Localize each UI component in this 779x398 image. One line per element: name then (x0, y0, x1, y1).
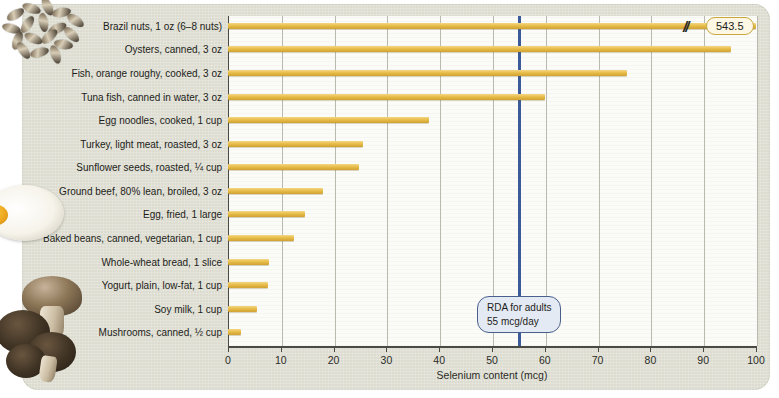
bar-11 (228, 282, 268, 288)
x-tick-label-20: 20 (328, 354, 340, 366)
bar-13 (228, 329, 241, 335)
gridline-80 (651, 16, 652, 346)
x-tick-label-10: 10 (275, 354, 287, 366)
category-label-6: Sunflower seeds, roasted, ¼ cup (0, 162, 222, 173)
bar-6 (228, 164, 359, 170)
bar-3 (228, 94, 545, 100)
x-tick-50 (492, 346, 493, 352)
x-tick-40 (439, 346, 440, 352)
bar-8 (228, 211, 305, 217)
gridline-100 (757, 16, 758, 346)
brazil-nuts-value-callout: 543.5 (706, 17, 754, 35)
x-tick-label-100: 100 (747, 354, 765, 366)
category-label-10: Whole-wheat bread, 1 slice (0, 256, 222, 267)
gridline-20 (335, 16, 336, 346)
x-tick-70 (598, 346, 599, 352)
x-tick-label-30: 30 (381, 354, 393, 366)
rda-label-line1: RDA for adults (487, 301, 551, 315)
x-tick-30 (386, 346, 387, 352)
bar-2 (228, 70, 627, 76)
x-tick-label-0: 0 (225, 354, 231, 366)
x-tick-0 (228, 346, 229, 352)
bar-5 (228, 141, 363, 147)
gridline-90 (704, 16, 705, 346)
bar-4 (228, 117, 429, 123)
rda-label-line2: 55 mcg/day (487, 315, 551, 329)
selenium-content-figure: Brazil nuts, 1 oz (6–8 nuts)Oysters, can… (0, 0, 779, 398)
x-tick-label-90: 90 (697, 354, 709, 366)
gridline-30 (387, 16, 388, 346)
bar-1 (228, 46, 731, 52)
category-label-2: Fish, orange roughy, cooked, 3 oz (0, 67, 222, 78)
gridline-10 (282, 16, 283, 346)
x-tick-20 (334, 346, 335, 352)
category-label-4: Egg noodles, cooked, 1 cup (0, 115, 222, 126)
x-tick-100 (756, 346, 757, 352)
bar-12 (228, 306, 257, 312)
x-tick-10 (281, 346, 282, 352)
rda-annotation-box: RDA for adults 55 mcg/day (477, 296, 561, 333)
x-tick-80 (650, 346, 651, 352)
x-tick-90 (703, 346, 704, 352)
bar-10 (228, 259, 269, 265)
bar-9 (228, 235, 294, 241)
x-tick-label-50: 50 (486, 354, 498, 366)
category-label-5: Turkey, light meat, roasted, 3 oz (0, 138, 222, 149)
category-label-3: Tuna fish, canned in water, 3 oz (0, 91, 222, 102)
x-tick-label-60: 60 (539, 354, 551, 366)
x-tick-label-70: 70 (592, 354, 604, 366)
x-tick-60 (545, 346, 546, 352)
x-axis-title: Selenium content (mcg) (228, 369, 756, 381)
axis-break-icon: // (683, 17, 687, 34)
gridline-40 (440, 16, 441, 346)
x-tick-label-40: 40 (433, 354, 445, 366)
bar-7 (228, 188, 323, 194)
bar-0 (228, 23, 756, 29)
x-tick-label-80: 80 (645, 354, 657, 366)
gridline-70 (599, 16, 600, 346)
